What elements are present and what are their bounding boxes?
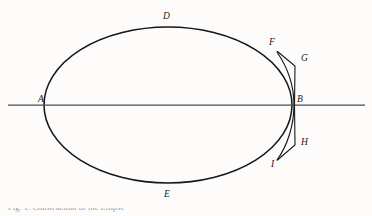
point-label-E: E — [164, 190, 170, 200]
point-label-D: D — [163, 12, 170, 22]
point-label-I: I — [271, 160, 274, 170]
ellipse-construction-drawing — [0, 0, 372, 216]
point-label-H: H — [301, 138, 308, 148]
point-label-B: B — [297, 95, 303, 105]
point-label-F: F — [269, 38, 275, 48]
figure-caption: Fig. 1. Construction of the Ellipse — [8, 208, 124, 212]
point-label-A: A — [38, 95, 44, 105]
figure-container: A B D E F G H I Fig. 1. Construction of … — [0, 0, 372, 216]
figure-caption-clip: Fig. 1. Construction of the Ellipse — [0, 208, 372, 216]
point-label-G: G — [301, 54, 308, 64]
